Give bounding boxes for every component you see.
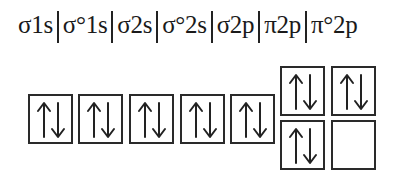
label-sigma-2s: σ2s (117, 11, 152, 39)
orbital-box (280, 120, 325, 170)
spin-down-arrow-icon (304, 75, 316, 109)
separator (258, 11, 260, 43)
spin-down-arrow-icon (102, 103, 114, 137)
spin-up-arrow-icon (139, 103, 151, 137)
spin-down-arrow-icon (304, 129, 316, 163)
label-sigma-star-1s: σ°1s (63, 11, 108, 39)
spin-up-arrow-icon (341, 75, 353, 109)
spin-up-arrow-icon (190, 103, 202, 137)
label-pi-2p: π2p (264, 11, 301, 39)
separator (156, 11, 158, 43)
separator (57, 11, 59, 43)
separator (211, 11, 213, 43)
label-sigma-1s: σ1s (18, 11, 53, 39)
spin-up-arrow-icon (88, 103, 100, 137)
separator (305, 11, 307, 43)
spin-down-arrow-icon (153, 103, 165, 137)
label-sigma-star-2s: σ°2s (162, 11, 207, 39)
spin-down-arrow-icon (204, 103, 216, 137)
label-pi-star-2p: π°2p (311, 11, 357, 39)
orbital-box (180, 94, 225, 144)
label-sigma-2p: σ2p (217, 11, 255, 39)
spin-down-arrow-icon (355, 75, 367, 109)
orbital-box (129, 94, 174, 144)
spin-up-arrow-icon (290, 75, 302, 109)
orbital-box (28, 94, 73, 144)
orbital-box (331, 66, 376, 116)
spin-down-arrow-icon (254, 103, 266, 137)
spin-down-arrow-icon (52, 103, 64, 137)
separator (111, 11, 113, 43)
spin-up-arrow-icon (240, 103, 252, 137)
spin-up-arrow-icon (38, 103, 50, 137)
orbital-box (331, 120, 376, 170)
spin-up-arrow-icon (290, 129, 302, 163)
orbital-box (280, 66, 325, 116)
orbital-labels-row: σ1s σ°1s σ2s σ°2s σ2p π2p π°2p (18, 5, 357, 45)
orbital-box (230, 94, 275, 144)
orbital-box (78, 94, 123, 144)
